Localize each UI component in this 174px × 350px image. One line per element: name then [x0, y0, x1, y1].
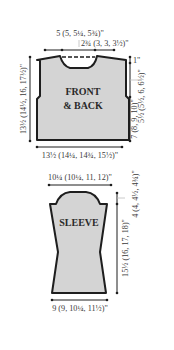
neck-depth-label: 1" — [133, 56, 140, 65]
sleeve-cuff-width-label: 9 (9, 10¼, 11½)" — [52, 304, 108, 313]
width-dimension: 13½ (14¼, 14¾, 15½)" — [36, 146, 124, 160]
total-length-label: 13½ (14½, 16, 17½)" — [19, 64, 28, 134]
shoulder-width-label: 5 (5, 5¼, 5¾)" — [56, 29, 104, 38]
sleeve-outline — [50, 192, 107, 293]
shoulder-dimension: 5 (5, 5¼, 5¾)" 2¾ (3, 3, 3½)" — [44, 29, 129, 51]
front-back-piece: FRONT & BACK — [37, 56, 129, 140]
schematic-diagram: FRONT & BACK 5 (5, 5¼, 5¾)" 2¾ (3, 3, 3½… — [0, 0, 174, 350]
sleeve-cuff-width-dimension: 9 (9, 10¼, 11½)" — [51, 299, 109, 313]
front-back-label-line2: & BACK — [63, 100, 103, 111]
sleeve-label: SLEEVE — [59, 217, 99, 228]
sleeve-cap-height-label: 4 (4, 4½, 4¾)" — [131, 170, 140, 218]
sleeve-length-label: 15½ (16, 17, 18)" — [121, 219, 130, 277]
neck-half-width-label: 2¾ (3, 3, 3½)" — [81, 39, 129, 48]
total-length-dimension: 13½ (14½, 16, 17½)" — [19, 56, 31, 143]
sleeve-piece: SLEEVE — [50, 192, 107, 293]
sleeve-vertical-dimensions: 4 (4, 4½, 4¾)" 15½ (16, 17, 18)" — [116, 170, 140, 294]
front-back-label-line1: FRONT — [66, 86, 101, 97]
width-label: 13½ (14¼, 14¾, 15½)" — [42, 151, 118, 160]
front-back-outline — [37, 56, 129, 140]
sleeve-upper-width-dimension: 10¼ (10¼, 11, 12)" — [48, 173, 113, 186]
right-vertical-dimensions: 1" 5½ (5½, 6, 6½)" 7 (8, 9, 10)" — [129, 56, 146, 143]
side-length-label: 7 (8, 9, 10)" — [130, 99, 139, 139]
sleeve-upper-width-label: 10¼ (10¼, 11, 12)" — [48, 173, 112, 182]
